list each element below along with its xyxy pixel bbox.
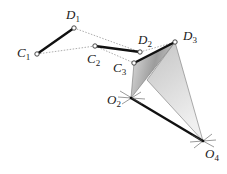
label-O4: O4 bbox=[205, 146, 219, 163]
label-C2: C2 bbox=[87, 51, 100, 68]
joint-C3 bbox=[132, 61, 136, 65]
joint-C2 bbox=[93, 44, 97, 48]
label-D1: D1 bbox=[65, 7, 80, 24]
label-D2: D2 bbox=[137, 32, 152, 49]
label-O2: O2 bbox=[107, 92, 121, 109]
label-C3: C3 bbox=[113, 60, 127, 77]
joint-D2 bbox=[138, 50, 142, 54]
joint-C1 bbox=[35, 52, 39, 56]
label-C1: C1 bbox=[17, 45, 30, 62]
label-D3: D3 bbox=[182, 28, 197, 45]
linkage-diagram: C1 D1 C2 D2 C3 D3 O2 O4 bbox=[0, 0, 227, 174]
joint-D1 bbox=[72, 26, 76, 30]
pivot-O2 bbox=[130, 97, 133, 100]
joint-D3 bbox=[173, 40, 177, 44]
link-C1-D1 bbox=[37, 28, 74, 54]
pivot-O4 bbox=[202, 140, 205, 143]
